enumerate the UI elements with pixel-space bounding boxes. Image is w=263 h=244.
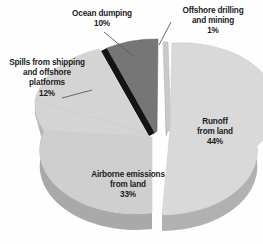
pie-label-ocean-dumping: Ocean dumping 10% (56, 9, 148, 29)
pie-label-runoff-line1: Runoff (186, 117, 244, 127)
pie-label-airborne: Airborne emissions from land 33% (82, 170, 174, 201)
pie-chart-figure: Ocean dumping 10% Offshore drilling and … (0, 0, 263, 244)
pie-label-spills-value: 12% (2, 89, 92, 99)
pie-label-airborne-line2: from land (82, 180, 174, 190)
pie-label-spills-line2: and offshore (2, 68, 92, 78)
pie-label-spills-line3: platforms (2, 78, 92, 88)
pie-label-ocean-dumping-value: 10% (56, 19, 148, 29)
pie-label-airborne-line1: Airborne emissions (82, 170, 174, 180)
pie-label-airborne-value: 33% (82, 190, 174, 200)
pie-label-runoff-value: 44% (186, 137, 244, 147)
pie-label-spills-line1: Spills from shipping (2, 58, 92, 68)
pie-slice-offshore-drilling-top (163, 42, 171, 131)
pie-label-offshore-drilling-line1: Offshore drilling (165, 6, 261, 16)
pie-label-spills: Spills from shipping and offshore platfo… (2, 58, 92, 99)
pie-label-offshore-drilling: Offshore drilling and mining 1% (165, 6, 261, 37)
pie-label-runoff-line2: from land (186, 127, 244, 137)
pie-label-runoff: Runoff from land 44% (186, 117, 244, 148)
pie-label-offshore-drilling-value: 1% (165, 26, 261, 36)
pie-label-offshore-drilling-line2: and mining (165, 16, 261, 26)
pie-label-ocean-dumping-line1: Ocean dumping (56, 9, 148, 19)
